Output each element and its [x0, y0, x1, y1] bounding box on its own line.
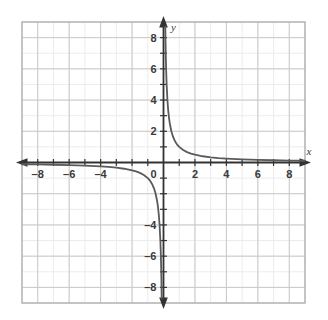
x-tick-label-neg8: –8 [32, 168, 44, 180]
y-axis-name: y [170, 21, 176, 33]
y-tick-label-8: 8 [150, 32, 156, 44]
origin-label: 0 [150, 168, 156, 180]
y-tick-label-2: 2 [150, 125, 156, 137]
x-tick-label-neg6: –6 [63, 168, 75, 180]
x-tick-label-neg4: –4 [94, 168, 107, 180]
graph-figure: –8–6–424688642–4–6–80xy [0, 0, 328, 320]
x-tick-label-4: 4 [223, 168, 230, 180]
x-tick-label-2: 2 [192, 168, 198, 180]
y-tick-label-neg4: –4 [144, 219, 157, 231]
y-tick-label-neg6: –6 [144, 250, 156, 262]
x-axis-name: x [306, 145, 312, 157]
x-tick-label-6: 6 [255, 168, 261, 180]
x-tick-label-8: 8 [286, 168, 292, 180]
y-tick-label-neg8: –8 [144, 281, 156, 293]
coordinate-plane-svg: –8–6–424688642–4–6–80xy [0, 0, 328, 320]
y-tick-label-6: 6 [150, 63, 156, 75]
y-tick-label-4: 4 [150, 94, 157, 106]
